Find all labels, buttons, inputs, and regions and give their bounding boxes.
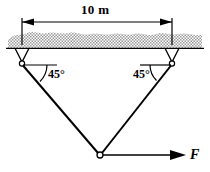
force-label: F xyxy=(190,148,199,162)
ceiling-hatch-band xyxy=(6,28,204,49)
left-angle-arc xyxy=(40,65,47,82)
apex-pin-joint xyxy=(97,152,103,158)
statics-diagram: 10 m 45° 45° F xyxy=(0,0,210,172)
right-support-bracket xyxy=(165,48,179,66)
force-arrow xyxy=(103,150,186,160)
dimension-label: 10 m xyxy=(81,3,109,16)
dimension-line xyxy=(22,18,172,25)
diagram-canvas xyxy=(0,0,210,172)
left-support-bracket xyxy=(15,48,29,66)
right-angle-arc xyxy=(150,65,157,81)
right-angle-label: 45° xyxy=(133,68,150,80)
left-angle-label: 45° xyxy=(48,68,65,80)
